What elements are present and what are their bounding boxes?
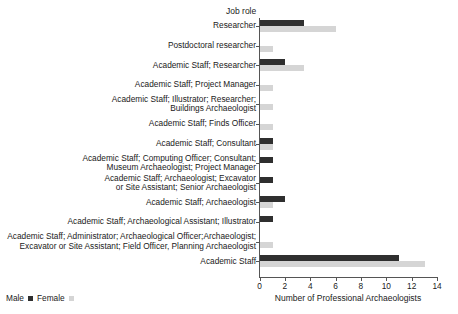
bar-group [260, 236, 273, 248]
bar-group [260, 216, 273, 228]
category-label: Academic Staff; Project Manager [6, 80, 256, 89]
legend-swatch-male-icon [28, 296, 33, 301]
bar-male [260, 157, 273, 163]
y-axis-tick [256, 242, 259, 243]
y-axis-tick [256, 46, 259, 47]
bar-group [260, 20, 336, 32]
x-axis-tick-label: 4 [308, 281, 313, 291]
bar-female [260, 124, 273, 130]
bar-chart: Job role ResearcherPostdoctoral research… [0, 0, 458, 314]
y-axis-tick [256, 124, 259, 125]
category-label: Academic Staff; Archaeological Assistant… [6, 217, 256, 226]
category-label: Academic Staff; Administrator; Archaeolo… [6, 232, 256, 250]
category-label: Researcher [6, 21, 256, 30]
legend-label-male: Male [6, 293, 24, 303]
bar-female [260, 261, 425, 267]
bar-male [260, 216, 273, 222]
legend-swatch-female-icon [69, 296, 74, 301]
category-label: Academic Staff; Computing Officer; Consu… [6, 154, 256, 172]
y-axis-title: Job role [226, 6, 256, 16]
chart-legend: Male Female [6, 293, 74, 303]
bar-group [260, 138, 273, 150]
bar-group [260, 255, 425, 267]
bar-female [260, 104, 273, 110]
category-label: Postdoctoral researcher [6, 41, 256, 50]
x-axis-tick-label: 14 [432, 281, 441, 291]
bar-group [260, 157, 273, 169]
y-axis-tick [256, 202, 259, 203]
y-axis-tick [256, 222, 259, 223]
bar-female [260, 202, 273, 208]
bar-female [260, 85, 273, 91]
bar-female [260, 65, 304, 71]
bar-female [260, 242, 273, 248]
bar-group [260, 79, 273, 91]
y-axis-tick [256, 261, 259, 262]
y-axis-tick [256, 26, 259, 27]
bar-group [260, 118, 273, 130]
x-axis-tick-label: 6 [333, 281, 338, 291]
x-axis-tick-label: 10 [382, 281, 391, 291]
y-axis-tick [256, 85, 259, 86]
bar-female [260, 144, 273, 150]
category-label: Academic Staff [6, 257, 256, 266]
plot-area: ResearcherPostdoctoral researcherAcademi… [0, 18, 458, 278]
x-axis-tick-label: 0 [257, 281, 262, 291]
x-axis-title: Number of Professional Archaeologists [259, 293, 437, 303]
x-axis-tick-label: 8 [359, 281, 364, 291]
bar-female [260, 26, 336, 32]
legend-label-female: Female [37, 293, 65, 303]
bar-group [260, 98, 273, 110]
category-label: Academic Staff; Researcher [6, 61, 256, 70]
category-label: Academic Staff; Illustrator; Researcher;… [6, 95, 256, 113]
bar-group [260, 177, 273, 189]
category-label: Academic Staff; Consultant [6, 139, 256, 148]
x-axis-tick-label: 2 [283, 281, 288, 291]
y-axis-tick [256, 163, 259, 164]
y-axis-tick [256, 183, 259, 184]
category-label: Academic Staff; Finds Officer [6, 119, 256, 128]
category-label: Academic Staff; Archaeologist [6, 198, 256, 207]
bar-group [260, 196, 285, 208]
bar-group [260, 59, 304, 71]
category-label: Academic Staff; Archaeologist; Excavator… [6, 174, 256, 192]
x-axis-tick-label: 12 [407, 281, 416, 291]
bar-group [260, 40, 273, 52]
bar-male [260, 177, 273, 183]
y-axis-tick [256, 144, 259, 145]
y-axis-tick [256, 65, 259, 66]
bar-female [260, 46, 273, 52]
y-axis-tick [256, 104, 259, 105]
